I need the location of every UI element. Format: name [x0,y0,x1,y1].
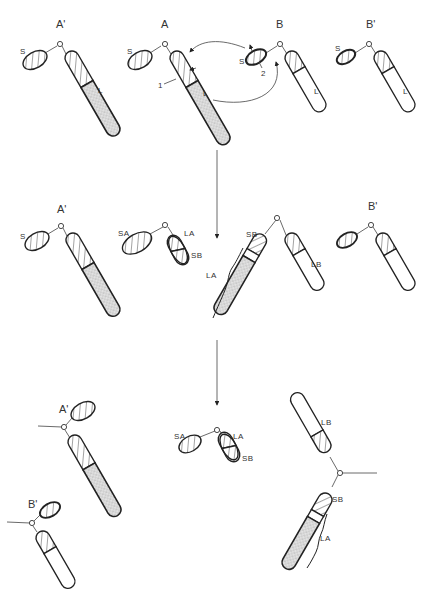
label-l: L [403,87,408,96]
connector [45,46,57,53]
label-b-prime: B' [28,498,37,510]
arrow-b-to-a-icon [190,42,245,52]
centromere-icon [57,41,62,46]
connector [332,475,338,487]
breakpoint-1-pointer [164,79,176,84]
label-l: L [314,87,319,96]
connector [265,220,276,234]
label-la: LA [206,271,217,280]
label-b-prime: B' [366,18,375,30]
chromosome-a-prime-stage3: A' [38,398,124,520]
chromosome-b-prime-stage3: B' [7,498,78,591]
short-arm-s [22,228,53,255]
centromere-icon [58,223,63,228]
label-l: L [98,86,103,95]
label-l: L [203,89,208,98]
label-lb: LB [321,418,332,427]
long-arm [33,528,77,590]
label-a-prime: A' [56,18,65,30]
label-la: LA [320,534,331,543]
label-sa: SA [118,229,130,238]
connector [34,515,40,521]
label-sb: SB [246,230,258,239]
centromere-icon [29,520,34,525]
label-a-prime: A' [59,403,68,415]
spindle-fiber [7,522,30,523]
stage-2: A' S SA LA SB [20,200,418,319]
label-s: S [20,47,26,56]
large-translocation-chromosomes-stage2: SB LA LB [206,215,327,318]
long-arm [63,230,122,318]
stage-1: A' S L A S 1 L [20,0,418,147]
short-arm-s [68,398,99,425]
label-sb: SB [242,454,254,463]
spindle-fiber [38,426,62,427]
connector [166,46,171,54]
centromere-icon [366,41,371,46]
connector [282,46,287,54]
small-translocation-chromosome-stage3: SA LA SB [174,427,254,464]
label-b-prime: B' [368,200,377,212]
label-sb: SB [191,251,203,260]
connector [373,227,378,235]
connector [355,46,366,53]
sb-la-chromosome [211,231,269,317]
connector [48,228,58,234]
connector [65,430,70,438]
connector [33,526,37,532]
label-sa: SA [174,432,186,441]
centromere-icon [277,41,282,46]
label-break-1: 1 [158,81,163,90]
arrow-break-b-icon [250,45,252,51]
connector [168,227,173,235]
connector [150,46,161,53]
long-arm-l [371,48,417,114]
long-arm-l [62,48,122,138]
chromosome-a-prime-stage1: A' S L [20,18,123,139]
large-translocation-chromosomes-stage3: LB SB LA [279,390,377,572]
label-s: S [20,232,26,241]
centromere-icon [162,41,167,46]
connector [330,457,338,471]
long-arm-l [167,48,232,147]
arrow-a-to-b-icon [213,62,277,102]
translocation-diagram: A' S L A S 1 L [0,0,423,595]
long-arm [65,432,123,519]
short-arm-s [334,229,360,251]
connector [266,46,277,53]
chromosome-a-stage1: A S 1 L [125,18,233,147]
label-la: LA [233,432,244,441]
label-la: LA [184,229,195,238]
connector [200,431,215,437]
long-arm-l [282,48,328,114]
sb-la-chromosome [279,490,334,571]
connector [62,46,66,54]
centromere-icon [61,424,66,429]
short-arm-s [243,46,269,68]
label-a-prime: A' [57,203,66,215]
label-s: S [335,44,341,53]
label-s: S [239,57,245,66]
short-arm-s [37,499,63,521]
connector [150,227,163,234]
label-break-2: 2 [261,69,266,78]
label-lb: LB [311,260,322,269]
centromere-icon [214,427,219,432]
connector [357,227,368,234]
label-b: B [276,18,283,30]
label-s: S [127,47,133,56]
centromere-icon [274,215,279,220]
stage-3: A' B' [7,390,377,591]
chromosome-a-prime-stage2: A' S [20,203,123,319]
small-translocation-chromosome-stage2: SA LA SB [118,222,203,267]
long-arm [373,230,417,292]
centromere-icon [162,222,167,227]
centromere-icon [337,470,342,475]
chromosome-b-prime-stage2: B' [334,200,417,293]
connector [66,418,72,425]
connector [280,220,286,235]
connector [63,228,67,236]
centromere-icon [368,222,373,227]
label-a: A [161,18,169,30]
label-sb: SB [332,495,344,504]
